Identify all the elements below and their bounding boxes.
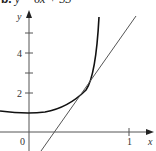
y-tick-label-4: 4	[17, 48, 22, 59]
y-axis-arrow-icon	[26, 10, 32, 18]
x-axis-arrow-icon	[146, 129, 154, 135]
x-axis-label: x	[147, 136, 153, 147]
chart-plot: y 4 2 0 1 x	[0, 0, 156, 151]
tangent-line-series	[41, 16, 136, 151]
x-tick-label-1: 1	[127, 136, 132, 147]
origin-label: 0	[20, 136, 25, 147]
curve-series	[0, 17, 99, 113]
y-axis-label: y	[16, 11, 22, 22]
y-tick-label-2: 2	[17, 88, 22, 99]
